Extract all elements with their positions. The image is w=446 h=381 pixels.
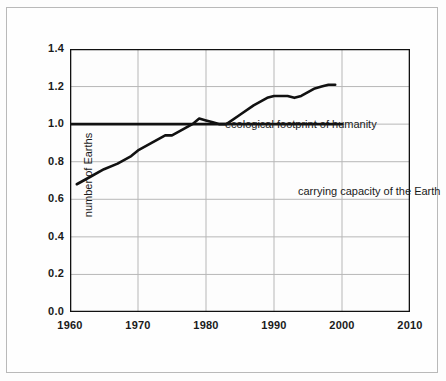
x-axis-tick-label: 1990 <box>261 319 286 331</box>
y-axis-tick-label: 0.6 <box>34 192 64 205</box>
chart-screenshot: number of Earths ecological footprint of… <box>0 0 446 381</box>
y-axis-title: number of Earths <box>82 115 94 235</box>
plot-area: number of Earths ecological footprint of… <box>70 49 410 312</box>
x-axis-tick-labels: 196019701980199020002010 <box>70 319 410 337</box>
chart-canvas <box>70 49 410 312</box>
y-axis-tick-label-text: 1.0 <box>48 117 64 129</box>
y-axis-tick-label: 0.8 <box>34 155 64 168</box>
y-axis-tick-labels: 0.00.20.40.60.81.01.21.4 <box>34 49 64 312</box>
axis-ticks <box>70 49 410 312</box>
y-axis-tick-label-text: 0.8 <box>48 155 64 167</box>
x-axis-tick-label: 1960 <box>57 319 82 331</box>
y-axis-tick-label-text: 1.2 <box>48 80 64 92</box>
y-axis-tick-label-text: 0.2 <box>48 267 64 279</box>
axis-lines <box>70 49 410 312</box>
x-axis-tick-label: 1980 <box>193 319 218 331</box>
y-axis-tick-label-text: 0.0 <box>48 305 64 317</box>
x-axis-tick-label: 2000 <box>329 319 354 331</box>
y-axis-tick-label-text: 0.6 <box>48 192 64 204</box>
y-axis-tick-label: 0.0 <box>34 305 64 318</box>
annotation-footprint: ecological footprint of humanity <box>225 118 377 130</box>
y-axis-tick-label: 1.4 <box>34 42 64 55</box>
y-axis-tick-label: 1.0 <box>34 117 64 130</box>
annotation-capacity: carrying capacity of the Earth <box>298 185 440 197</box>
y-axis-tick-label-text: 1.4 <box>48 42 64 54</box>
y-axis-tick-label: 1.2 <box>34 80 64 93</box>
x-axis-tick-label: 1970 <box>125 319 150 331</box>
y-axis-tick-label-text: 0.4 <box>48 230 64 242</box>
gridlines <box>70 49 410 312</box>
x-axis-tick-label: 2010 <box>397 319 422 331</box>
y-axis-tick-label: 0.4 <box>34 230 64 243</box>
y-axis-tick-label: 0.2 <box>34 267 64 280</box>
